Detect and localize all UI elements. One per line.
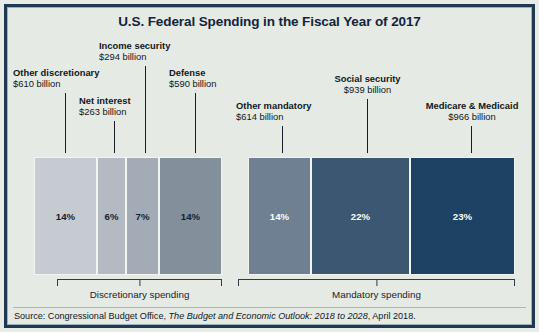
bar-defense[interactable]: 14% (159, 157, 222, 275)
callout-social-security-value: $939 billion (310, 84, 425, 95)
callout-other-mandatory-name: Other mandatory (236, 100, 312, 111)
callout-defense-value: $590 billion (169, 78, 216, 89)
chart-screenshot: U.S. Federal Spending in the Fiscal Year… (0, 0, 539, 332)
bar-label-income-security: 7% (135, 211, 149, 222)
leader-line-other-discretionary (65, 93, 66, 153)
callout-income-security-value: $294 billion (99, 51, 170, 62)
bar-other-mandatory[interactable]: 14% (248, 157, 311, 275)
leader-line-medicare-medicaid (471, 126, 472, 153)
callout-medicare-medicaid-value: $966 billion (410, 111, 534, 122)
bar-income-security[interactable]: 7% (126, 157, 159, 275)
source-prefix: Source: Congressional Budget Office, (14, 311, 169, 321)
bracket-nub-mandatory (376, 280, 377, 286)
bar-net-interest[interactable]: 6% (97, 157, 126, 275)
bar-label-medicare-medicaid: 23% (453, 211, 473, 222)
callout-social-security: Social security $939 billion (310, 73, 425, 96)
leader-line-other-mandatory (282, 126, 283, 153)
callout-other-discretionary-name: Other discretionary (13, 67, 100, 78)
callout-net-interest-name: Net interest (79, 95, 131, 106)
bar-label-other-discretionary: 14% (56, 211, 76, 222)
source-note: Source: Congressional Budget Office, The… (14, 311, 416, 321)
chart-title: U.S. Federal Spending in the Fiscal Year… (7, 14, 532, 29)
bar-other-discretionary[interactable]: 14% (34, 157, 97, 275)
bar-social-security[interactable]: 22% (311, 157, 410, 275)
group-label-discretionary: Discretionary spending (57, 289, 222, 300)
callout-other-discretionary: Other discretionary $610 billion (13, 67, 100, 90)
callout-other-mandatory: Other mandatory $614 billion (236, 100, 312, 123)
bar-label-defense: 14% (181, 211, 201, 222)
callout-social-security-name: Social security (310, 73, 425, 84)
bar-medicare-medicaid[interactable]: 23% (410, 157, 515, 275)
group-label-mandatory: Mandatory spending (238, 289, 515, 300)
leader-line-net-interest (114, 121, 115, 153)
callout-defense: Defense $590 billion (169, 67, 216, 90)
source-divider (13, 307, 526, 308)
leader-line-defense (195, 93, 196, 153)
bracket-nub-discretionary (139, 280, 140, 286)
source-suffix: , April 2018. (368, 311, 416, 321)
source-publication: The Budget and Economic Outlook: 2018 to… (169, 311, 368, 321)
bar-label-other-mandatory: 14% (270, 211, 290, 222)
bar-label-social-security: 22% (351, 211, 371, 222)
callout-medicare-medicaid: Medicare & Medicaid $966 billion (410, 100, 534, 123)
callout-medicare-medicaid-name: Medicare & Medicaid (410, 100, 534, 111)
callout-other-mandatory-value: $614 billion (236, 111, 312, 122)
leader-line-social-security (367, 99, 368, 153)
callout-income-security: Income security $294 billion (99, 40, 170, 63)
bar-label-net-interest: 6% (104, 211, 118, 222)
chart-frame: U.S. Federal Spending in the Fiscal Year… (4, 4, 535, 328)
callout-net-interest-value: $263 billion (79, 106, 131, 117)
bracket-mandatory (238, 279, 515, 286)
bracket-discretionary (57, 279, 222, 286)
callout-defense-name: Defense (169, 67, 216, 78)
callout-income-security-name: Income security (99, 40, 170, 51)
callout-other-discretionary-value: $610 billion (13, 78, 100, 89)
callout-net-interest: Net interest $263 billion (79, 95, 131, 118)
leader-line-income-security (145, 66, 146, 153)
